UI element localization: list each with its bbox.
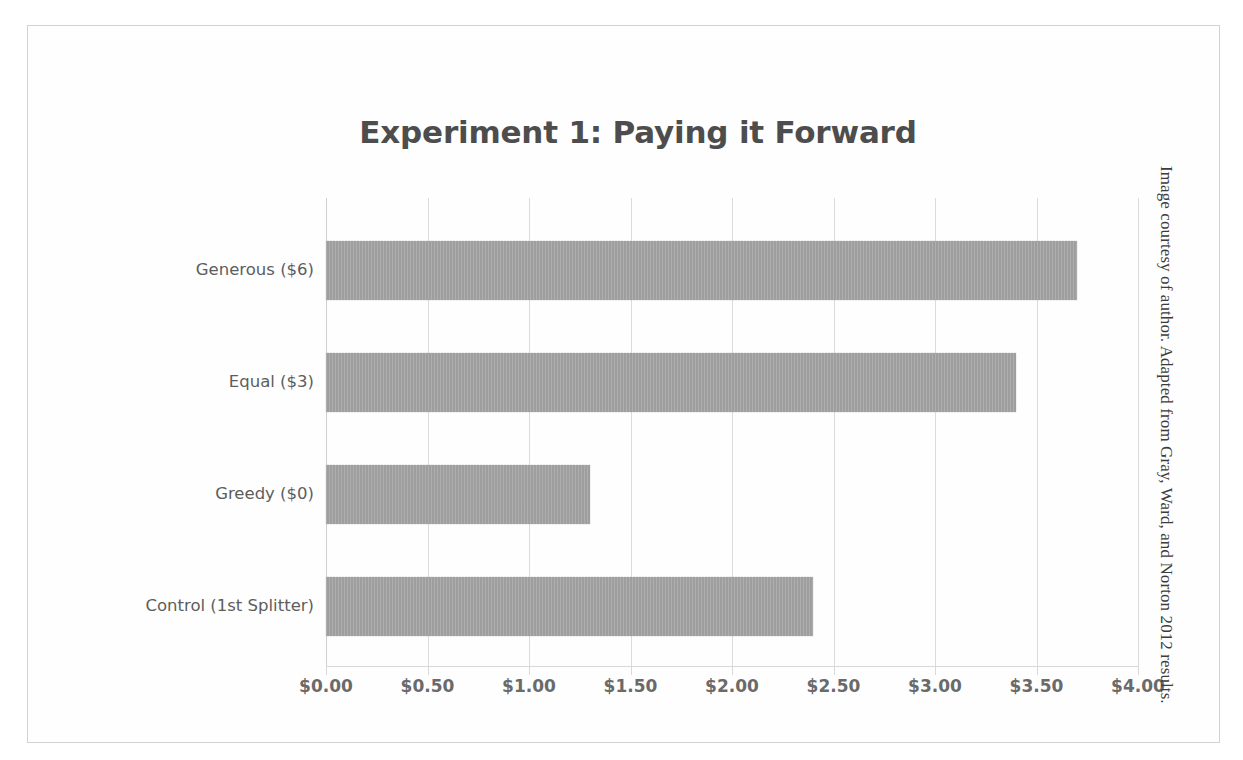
x-tick-mark	[732, 666, 733, 675]
bar[interactable]	[326, 241, 1077, 300]
gridline	[1138, 198, 1139, 666]
x-tick-label: $1.50	[576, 676, 686, 696]
source-caption: Image courtesy of author. Adapted from G…	[1156, 166, 1176, 726]
x-tick-label: $0.50	[373, 676, 483, 696]
bar-row	[326, 438, 1138, 550]
x-tick-label: $2.50	[779, 676, 889, 696]
x-tick-label: $3.00	[880, 676, 990, 696]
bar-row	[326, 550, 1138, 662]
y-axis-category-labels: Generous ($6)Equal ($3)Greedy ($0)Contro…	[68, 198, 314, 666]
category-label: Generous ($6)	[78, 260, 314, 279]
category-label: Equal ($3)	[78, 372, 314, 391]
category-label: Greedy ($0)	[78, 484, 314, 503]
x-tick-mark	[834, 666, 835, 675]
bar[interactable]	[326, 577, 813, 636]
x-axis-tick-labels: $0.00$0.50$1.00$1.50$2.00$2.50$3.00$3.50…	[326, 676, 1138, 706]
x-tick-mark	[326, 666, 327, 675]
category-label: Control (1st Splitter)	[78, 596, 314, 615]
chart-title: Experiment 1: Paying it Forward	[208, 114, 1068, 150]
x-tick-mark	[529, 666, 530, 675]
bar[interactable]	[326, 465, 590, 524]
figure-frame: Experiment 1: Paying it Forward Generous…	[27, 25, 1220, 743]
x-tick-mark	[935, 666, 936, 675]
bar[interactable]	[326, 353, 1016, 412]
x-tick-label: $4.00	[1083, 676, 1193, 696]
plot-area	[326, 198, 1138, 666]
bar-row	[326, 326, 1138, 438]
x-tick-label: $3.50	[982, 676, 1092, 696]
x-tick-mark	[1037, 666, 1038, 675]
x-tick-mark	[631, 666, 632, 675]
x-tick-label: $0.00	[271, 676, 381, 696]
x-tick-mark	[428, 666, 429, 675]
bar-row	[326, 214, 1138, 326]
x-tick-label: $2.00	[677, 676, 787, 696]
x-tick-label: $1.00	[474, 676, 584, 696]
x-tick-mark	[1138, 666, 1139, 675]
